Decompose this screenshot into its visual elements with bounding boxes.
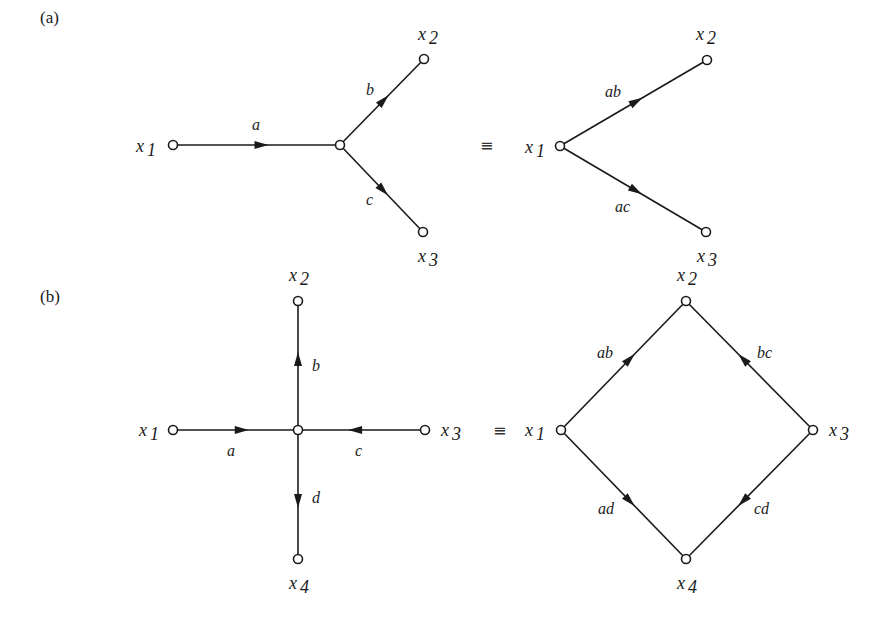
node-label: x1	[524, 137, 545, 161]
graph-b-right: abbcadcdx1x2x3x4	[524, 265, 849, 597]
node-circle-icon	[169, 426, 178, 435]
node-label: x3	[440, 420, 461, 444]
arrowhead-icon	[255, 141, 269, 149]
node-circle-icon	[682, 555, 691, 564]
node-label: x1	[135, 136, 156, 160]
node-circle-icon	[809, 426, 818, 435]
node-label: x3	[828, 420, 849, 444]
edge-gain-label: b	[312, 357, 320, 374]
graph-a-left: abcx1x2x3	[135, 24, 438, 270]
node-x3: x3	[421, 420, 462, 444]
node-x1: x1	[135, 136, 178, 160]
edge-gain-label: cd	[754, 500, 770, 517]
node-circle-icon	[557, 426, 566, 435]
node-x3: x3	[417, 228, 438, 271]
edge-x3-m: c	[303, 426, 421, 459]
node-x1: x1	[524, 137, 565, 161]
node-circle-icon	[420, 55, 429, 64]
node-x1: x1	[138, 420, 178, 444]
node-circle-icon	[703, 56, 712, 65]
node-label: x2	[676, 265, 697, 289]
diagram-svg: abcx1x2x3abacx1x2x3≡abcdx1x2x3x4abbcadcd…	[0, 0, 873, 620]
part-b-label: (b)	[40, 287, 60, 307]
node-junction	[294, 426, 303, 435]
node-label: x2	[417, 24, 438, 48]
arrowhead-icon	[294, 494, 302, 508]
node-x3: x3	[809, 420, 850, 444]
node-label: x3	[696, 246, 717, 270]
edge-x3-x2: bc	[689, 304, 810, 427]
edge-x1-m: a	[178, 426, 294, 459]
edge-x1-x2: ab	[564, 62, 703, 143]
arrowhead-icon	[294, 352, 302, 366]
edge-x1-m: a	[178, 116, 336, 149]
edge-gain-label: c	[355, 442, 362, 459]
edge-x1-x4: ad	[564, 433, 683, 556]
node-circle-icon	[169, 141, 178, 150]
node-x2: x2	[417, 24, 438, 64]
edge-gain-label: c	[366, 191, 373, 208]
edge-gain-label: ab	[605, 83, 621, 100]
node-x3: x3	[696, 228, 717, 271]
arrowhead-icon	[348, 426, 362, 434]
equivalence-symbol: ≡	[493, 421, 506, 440]
edge-m-x2: b	[343, 62, 421, 142]
node-circle-icon	[294, 555, 303, 564]
edge-gain-label: ab	[597, 344, 613, 361]
edge-x1-x2: ab	[564, 304, 683, 427]
arrowhead-icon	[628, 184, 642, 195]
node-x4: x4	[288, 555, 309, 598]
node-circle-icon	[421, 426, 430, 435]
edge-m-x2: b	[294, 306, 320, 426]
node-x4: x4	[676, 555, 697, 598]
arrowhead-icon	[235, 426, 249, 434]
node-circle-icon	[294, 426, 303, 435]
edge-gain-label: ac	[615, 198, 630, 215]
node-junction	[336, 141, 345, 150]
node-label: x1	[138, 420, 159, 444]
edge-x3-x4: cd	[689, 433, 810, 556]
node-circle-icon	[336, 141, 345, 150]
edge-gain-label: b	[366, 81, 374, 98]
node-label: x2	[288, 265, 309, 289]
node-circle-icon	[556, 142, 565, 151]
node-label: x3	[417, 246, 438, 270]
arrowhead-icon	[628, 98, 642, 109]
node-x2: x2	[288, 265, 309, 306]
node-x2: x2	[695, 24, 716, 65]
equivalence-symbol: ≡	[480, 136, 493, 155]
edge-m-x4: d	[294, 435, 321, 555]
graph-b-left: abcdx1x2x3x4	[138, 265, 461, 597]
node-circle-icon	[419, 228, 428, 237]
node-label: x2	[695, 24, 716, 48]
graph-a-right: abacx1x2x3	[524, 24, 717, 270]
edge-gain-label: bc	[757, 344, 772, 361]
node-circle-icon	[294, 297, 303, 306]
signal-flow-figure: (a) (b) abcx1x2x3abacx1x2x3≡abcdx1x2x3x4…	[0, 0, 873, 620]
node-x2: x2	[676, 265, 697, 306]
node-circle-icon	[702, 228, 711, 237]
edge-gain-label: d	[312, 489, 321, 506]
edge-gain-label: a	[227, 442, 235, 459]
node-circle-icon	[682, 297, 691, 306]
edge-x1-x3: ac	[564, 148, 702, 229]
node-label: x4	[288, 573, 309, 597]
edge-gain-label: a	[252, 116, 260, 133]
edge-m-x3: c	[343, 148, 420, 228]
node-label: x4	[676, 573, 697, 597]
node-label: x1	[524, 420, 545, 444]
edge-gain-label: ad	[598, 500, 615, 517]
node-x1: x1	[524, 420, 566, 444]
part-a-label: (a)	[40, 8, 59, 28]
